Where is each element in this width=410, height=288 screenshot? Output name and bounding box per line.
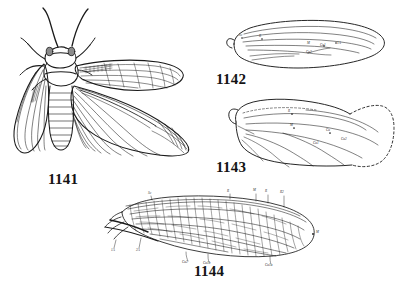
figure-label-1142: 1142 bbox=[216, 72, 246, 87]
vein-label-1142-m: M bbox=[307, 42, 310, 45]
vein-label-1144-m: M bbox=[253, 189, 256, 192]
figure-label-1143: 1143 bbox=[216, 160, 246, 175]
vein-label-1142-cu1: Cu1 bbox=[320, 44, 326, 47]
vein-label-1144-r: R bbox=[227, 190, 229, 193]
vein-label-1144-2a: 2A bbox=[136, 249, 140, 252]
figure-label-1144: 1144 bbox=[194, 264, 224, 279]
vein-label-1144-sc: Sc bbox=[148, 192, 151, 195]
vein-label-1144-cu1b: Cu1b bbox=[203, 262, 210, 265]
vein-label-1143-cu2: Cu2 bbox=[341, 138, 347, 141]
vein-label-1144-r-branch: R bbox=[265, 190, 267, 193]
vein-label-1142-cu2: Cu2 bbox=[306, 51, 312, 54]
figure-1144-wing bbox=[105, 194, 314, 264]
figure-label-1141: 1141 bbox=[48, 172, 78, 187]
vein-label-1144-cu2: Cu2 bbox=[182, 261, 188, 264]
figure-1141-insect bbox=[14, 8, 189, 156]
vein-label-1142-r: R bbox=[259, 35, 261, 38]
figure-1142-wing bbox=[227, 20, 385, 68]
vein-label-1144-apex-m: M bbox=[316, 231, 319, 234]
vein-label-1142-1a: 1A bbox=[337, 42, 341, 45]
vein-label-1144-cu1a: Cu1a bbox=[265, 264, 272, 267]
figure-1143-wing bbox=[229, 99, 394, 167]
vein-label-1143-r: R bbox=[288, 110, 290, 113]
plate-artwork bbox=[0, 0, 410, 288]
vein-label-1144-r2: R2 bbox=[280, 191, 284, 194]
vein-label-1143-cu: Cu bbox=[326, 129, 330, 132]
vein-label-1143-m: M bbox=[290, 124, 293, 127]
vein-label-1142-sc: Sc bbox=[239, 34, 242, 37]
vein-label-1144-1a: 1A bbox=[111, 249, 115, 252]
illustration-plate: 1141 1142 1143 1144 Sc R M Cu1 Cu2 1A R … bbox=[0, 0, 410, 288]
vein-label-1143-cu1: Cu1 bbox=[313, 142, 319, 145]
